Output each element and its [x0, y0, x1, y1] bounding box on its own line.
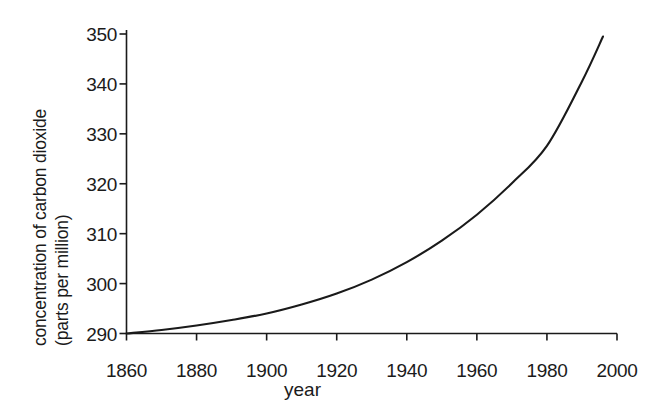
x-axis-tick-labels: 18601880190019201940196019802000 — [0, 349, 661, 373]
x-axis-tick-label: 1900 — [232, 361, 302, 380]
y-axis-ticks — [120, 34, 127, 334]
x-axis-tick-label: 1960 — [442, 361, 512, 380]
x-axis-tick-label: 1920 — [302, 361, 372, 380]
x-axis-title-text: year — [284, 379, 321, 400]
x-axis-tick-label: 1860 — [92, 361, 162, 380]
x-axis-tick-label: 1980 — [512, 361, 582, 380]
co2-concentration-chart: concentration of carbon dioxide (parts p… — [0, 0, 661, 417]
axes — [127, 30, 618, 334]
co2-data-line — [127, 37, 603, 334]
x-axis-tick-label: 2000 — [582, 361, 652, 380]
x-axis-title: year — [0, 379, 661, 401]
x-axis-tick-label: 1940 — [372, 361, 442, 380]
x-axis-tick-label: 1880 — [162, 361, 232, 380]
x-axis-ticks — [127, 334, 618, 341]
